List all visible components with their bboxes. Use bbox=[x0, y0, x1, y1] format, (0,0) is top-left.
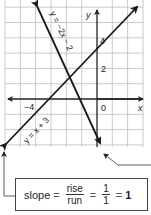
rise-text: rise bbox=[66, 183, 84, 195]
run-text: run bbox=[68, 195, 82, 206]
numerator: 1 bbox=[102, 183, 110, 195]
denominator: 1 bbox=[103, 195, 109, 206]
tick-label-y-2: 2 bbox=[101, 64, 106, 74]
tick-label-origin: 0 bbox=[101, 103, 106, 113]
equals-sign: = bbox=[116, 189, 122, 201]
equals-sign: = bbox=[53, 189, 59, 201]
one-over-one-fraction: 1 1 bbox=[102, 183, 110, 206]
slope-word: slope bbox=[24, 189, 50, 201]
y-axis-label: y bbox=[85, 10, 91, 20]
slope-result: 1 bbox=[125, 189, 131, 201]
slope-formula-box: slope = rise run = 1 1 = 1 bbox=[15, 178, 148, 211]
line-label-x-plus-3: y = x + 3 bbox=[21, 115, 51, 146]
callout-leader-left bbox=[4, 152, 15, 196]
rise-over-run-fraction: rise run bbox=[66, 183, 84, 206]
line-y-equals-x-plus-3 bbox=[6, 7, 137, 144]
coordinate-graph-figure: y x 4 2 0 −4 y = −2x − 2 y = x + 3 slope… bbox=[0, 0, 151, 215]
equals-sign: = bbox=[90, 189, 96, 201]
line-label-neg2x-minus-2: y = −2x − 2 bbox=[48, 10, 75, 53]
axes bbox=[8, 10, 143, 147]
tick-label-x-neg4: −4 bbox=[24, 102, 34, 112]
tick-label-y-4: 4 bbox=[100, 36, 105, 46]
callout-leader-right bbox=[104, 154, 151, 165]
x-axis-label: x bbox=[137, 103, 143, 113]
